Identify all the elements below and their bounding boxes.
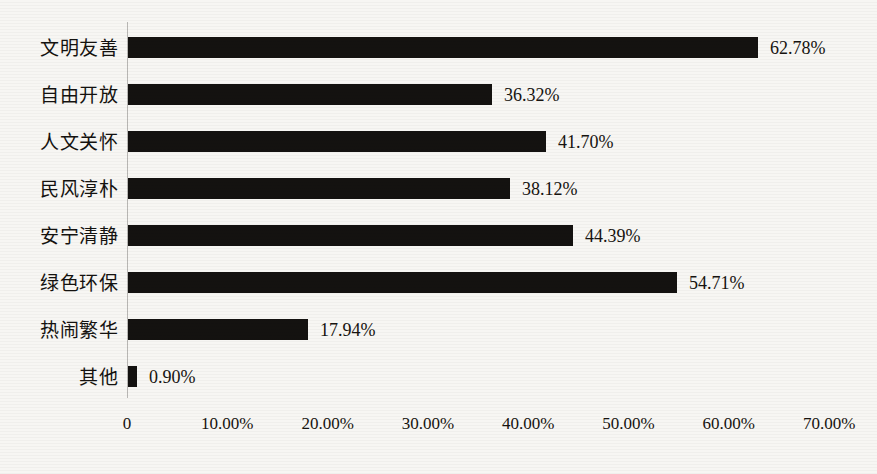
x-tick-label: 20.00% [301, 414, 353, 434]
bar [128, 225, 573, 246]
x-tick-label: 30.00% [402, 414, 454, 434]
bar-value-label: 38.12% [522, 178, 578, 199]
category-label: 安宁清静 [40, 225, 118, 246]
bar [128, 84, 492, 105]
bar [128, 366, 137, 387]
bar-chart: 文明友善62.78%自由开放36.32%人文关怀41.70%民风淳朴38.12%… [0, 0, 877, 474]
bar [128, 178, 510, 199]
category-label: 文明友善 [40, 37, 118, 58]
category-label: 自由开放 [40, 84, 118, 105]
bar-value-label: 44.39% [585, 225, 641, 246]
bar [128, 37, 758, 58]
bar-value-label: 0.90% [149, 366, 196, 387]
bar-row: 绿色环保54.71% [0, 272, 877, 293]
bar-value-label: 54.71% [689, 272, 745, 293]
bar-row: 民风淳朴38.12% [0, 178, 877, 199]
bar-row: 文明友善62.78% [0, 37, 877, 58]
bar-row: 安宁清静44.39% [0, 225, 877, 246]
bar [128, 131, 546, 152]
bar-value-label: 41.70% [558, 131, 614, 152]
bar-row: 人文关怀41.70% [0, 131, 877, 152]
x-tick-label: 10.00% [201, 414, 253, 434]
bar [128, 319, 308, 340]
bar-row: 其他0.90% [0, 366, 877, 387]
x-tick-label: 50.00% [602, 414, 654, 434]
bar [128, 272, 677, 293]
bar-row: 热闹繁华17.94% [0, 319, 877, 340]
x-tick-label: 40.00% [502, 414, 554, 434]
category-label: 人文关怀 [40, 131, 118, 152]
y-axis-line [127, 22, 128, 398]
category-label: 热闹繁华 [40, 319, 118, 340]
category-label: 绿色环保 [40, 272, 118, 293]
bar-row: 自由开放36.32% [0, 84, 877, 105]
x-tick-label: 70.00% [803, 414, 855, 434]
bar-value-label: 36.32% [504, 84, 560, 105]
x-tick-label: 0 [123, 414, 132, 434]
bar-value-label: 17.94% [320, 319, 376, 340]
category-label: 民风淳朴 [40, 178, 118, 199]
x-tick-label: 60.00% [703, 414, 755, 434]
bar-value-label: 62.78% [770, 37, 826, 58]
category-label: 其他 [79, 366, 118, 387]
plot-area: 文明友善62.78%自由开放36.32%人文关怀41.70%民风淳朴38.12%… [0, 0, 877, 474]
